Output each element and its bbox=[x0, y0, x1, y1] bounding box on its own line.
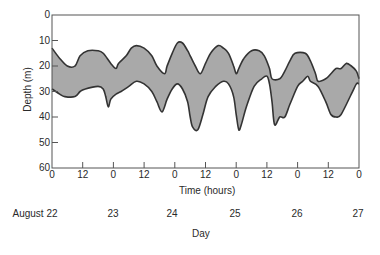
depth-band-area bbox=[52, 42, 359, 131]
x-tick-label: 12 bbox=[261, 169, 272, 180]
x-tick-label: 12 bbox=[323, 169, 334, 180]
y-tick-label: 20 bbox=[39, 60, 50, 71]
day-axis-title: Day bbox=[192, 228, 210, 239]
x-tick-label: 12 bbox=[77, 169, 88, 180]
x-tick-label: 12 bbox=[139, 169, 150, 180]
x-tick-label: 0 bbox=[111, 169, 117, 180]
y-axis-title: Depth (m) bbox=[22, 55, 33, 125]
y-tick-label: 50 bbox=[39, 137, 50, 148]
day-label: 26 bbox=[291, 208, 302, 219]
day-label: 25 bbox=[229, 208, 240, 219]
x-axis-title: Time (hours) bbox=[179, 185, 235, 196]
y-tick-label: 40 bbox=[39, 111, 50, 122]
y-tick-label: 30 bbox=[39, 86, 50, 97]
x-tick-label: 0 bbox=[356, 169, 362, 180]
day-label: 24 bbox=[166, 208, 177, 219]
day-label: 27 bbox=[352, 208, 363, 219]
x-tick-label: 0 bbox=[49, 169, 55, 180]
y-tick-label: 0 bbox=[44, 9, 50, 20]
x-tick-label: 0 bbox=[233, 169, 239, 180]
day-label: August 22 bbox=[12, 208, 57, 219]
x-tick-label: 0 bbox=[172, 169, 178, 180]
x-tick-label: 12 bbox=[200, 169, 211, 180]
y-tick-label: 10 bbox=[39, 35, 50, 46]
x-tick-label: 0 bbox=[295, 169, 301, 180]
day-label: 23 bbox=[107, 208, 118, 219]
